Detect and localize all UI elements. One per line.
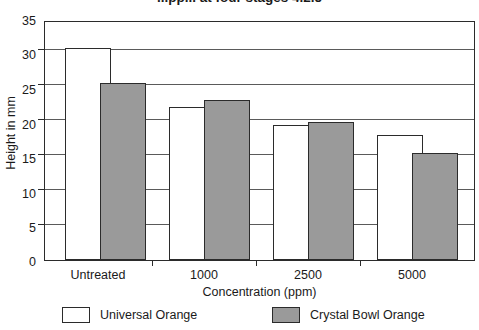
x-axis-tick [152, 261, 153, 266]
legend-label: Universal Orange [100, 308, 197, 322]
bar-1000-crystal-bowl-orange [204, 100, 250, 260]
x-axis-title: Concentration (ppm) [44, 285, 475, 299]
legend-entry-universal-orange: Universal Orange [62, 305, 197, 325]
legend-entry-crystal-bowl-orange: Crystal Bowl Orange [272, 305, 425, 325]
bar-chart-figure: ...pp... at four stages 4.2.5 35 30 25 2… [0, 0, 479, 330]
x-axis-category-label: 2500 [256, 268, 360, 282]
bar-5000-crystal-bowl-orange [412, 153, 458, 260]
plot-area [44, 21, 475, 261]
chart-title-clip: ...pp... at four stages 4.2.5 [0, 0, 479, 8]
y-axis-title: Height in mm [4, 53, 18, 213]
bar-2500-crystal-bowl-orange [308, 122, 354, 260]
x-axis-tick [360, 261, 361, 266]
legend-swatch-icon [62, 307, 90, 323]
bar-untreated-crystal-bowl-orange [100, 83, 146, 260]
legend-label: Crystal Bowl Orange [310, 308, 425, 322]
chart-legend: Universal Orange Crystal Bowl Orange [44, 305, 475, 327]
x-axis-tick [256, 261, 257, 266]
legend-swatch-icon [272, 307, 300, 323]
y-axis-tick-label: 35 [6, 15, 36, 28]
x-axis-category-label: Untreated [44, 268, 152, 282]
x-axis-category-label: 5000 [360, 268, 464, 282]
chart-title: ...pp... at four stages 4.2.5 [0, 0, 479, 5]
x-axis-category-label: 1000 [152, 268, 256, 282]
y-axis-tick-label: 0 [6, 256, 36, 269]
y-axis-tick-label: 5 [6, 222, 36, 235]
